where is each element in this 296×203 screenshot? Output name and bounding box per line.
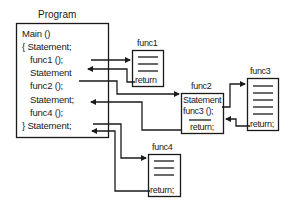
func2-return: return;: [190, 123, 214, 132]
program-line-statement-2: Statement: [30, 68, 72, 78]
program-line-statement-1: { Statement;: [22, 42, 71, 52]
func1-return: return: [135, 76, 157, 85]
func4-title: func4: [152, 143, 173, 152]
program-line-main: Main (): [22, 29, 50, 39]
func2-line-func3-call: func3 ();: [183, 107, 213, 116]
func4-return: return;: [150, 186, 174, 195]
func3-title: func3: [250, 67, 271, 76]
func2-line-statement: Statement: [183, 96, 221, 105]
program-line-func2-call: func2 ();: [30, 81, 63, 91]
func2-title: func2: [191, 82, 212, 91]
program-line-func1-call: func1 ();: [30, 55, 63, 65]
function-call-diagram: Program Main () { Statement; func1 (); S…: [0, 0, 296, 203]
func1-title: func1: [137, 39, 158, 48]
func3-return: return;: [250, 120, 274, 129]
program-title: Program: [38, 10, 76, 20]
program-line-func4-call: func4 ();: [30, 108, 63, 118]
program-line-statement-4: } Statement;: [22, 121, 71, 131]
program-line-statement-3: Statement;: [30, 95, 74, 105]
